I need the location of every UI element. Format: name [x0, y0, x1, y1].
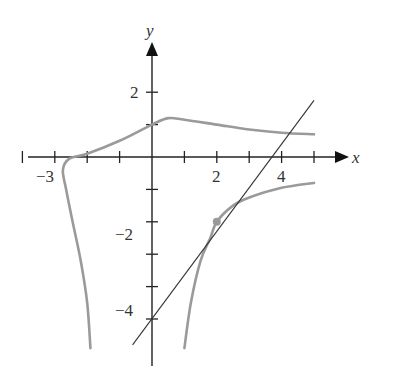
y-axis-label: y — [144, 21, 154, 40]
x-tick-label-4: 4 — [277, 167, 286, 186]
chart-container: x y −3 2 4 2 −2 −4 — [0, 0, 395, 371]
x-axis-arrow-icon — [335, 151, 349, 163]
y-axis — [146, 42, 158, 366]
y-tick-label-2: 2 — [130, 83, 139, 102]
y-tick-label-neg4: −4 — [115, 301, 134, 320]
tangency-point — [213, 218, 221, 226]
x-tick-label-2: 2 — [212, 167, 221, 186]
curve-lower-right-branch — [184, 183, 314, 348]
x-axis-label: x — [351, 148, 360, 167]
axis-ticks — [22, 92, 314, 319]
y-tick-label-neg2: −2 — [115, 225, 133, 244]
function-graph: x y −3 2 4 2 −2 −4 — [0, 0, 395, 371]
tangent-line — [133, 100, 314, 345]
y-axis-arrow-icon — [146, 42, 158, 56]
x-tick-label-neg3: −3 — [36, 167, 54, 186]
